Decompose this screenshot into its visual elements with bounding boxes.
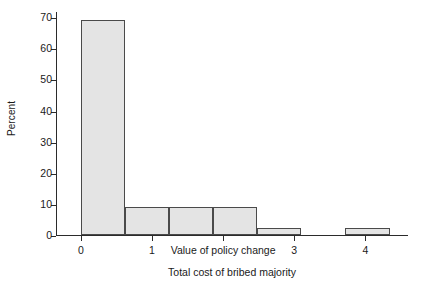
x-tick-mark: [81, 236, 82, 241]
y-tick-label: 40: [40, 105, 52, 118]
x-tick-mark: [223, 236, 224, 241]
y-tick-label: 60: [40, 42, 52, 55]
y-tick-label: 70: [40, 11, 52, 24]
x-tick-mark: [294, 236, 295, 241]
x-axis-title: Total cost of bribed majority: [56, 266, 408, 278]
x-tick-label: 0: [78, 244, 84, 257]
x-tick-mark: [152, 236, 153, 241]
histogram-bar: [257, 228, 301, 235]
x-tick-label: 1: [149, 244, 155, 257]
y-axis-line: [56, 12, 57, 236]
x-axis-line: [56, 235, 408, 236]
plot-area: 010203040506070 01Value of policy change…: [56, 12, 408, 236]
y-tick-label: 0: [46, 229, 52, 242]
x-tick-label: 4: [362, 244, 368, 257]
y-tick-label: 30: [40, 136, 52, 149]
x-tick-label: Value of policy change: [171, 244, 276, 257]
histogram-bar: [125, 207, 169, 235]
x-tick-label: 3: [291, 244, 297, 257]
histogram-bar: [169, 207, 213, 235]
y-tick-label: 20: [40, 167, 52, 180]
histogram-bar: [213, 207, 257, 235]
histogram-figure: Percent 010203040506070 01Value of polic…: [0, 0, 422, 296]
x-tick-mark: [365, 236, 366, 241]
histogram-bar: [81, 20, 125, 235]
y-tick-label: 10: [40, 198, 52, 211]
y-tick-label: 50: [40, 73, 52, 86]
y-axis-title-text: Percent: [7, 100, 18, 135]
y-axis-title: Percent: [2, 0, 22, 236]
histogram-bar: [345, 228, 389, 235]
